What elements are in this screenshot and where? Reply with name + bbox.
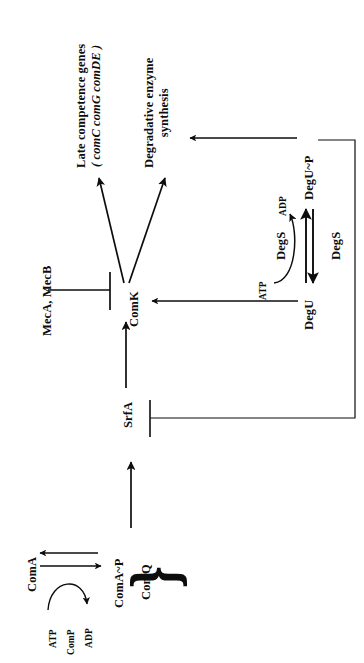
node-degu: DegU [303, 300, 317, 330]
cofactor-adp-degu: ADP [278, 196, 288, 216]
node-srfa: SrfA [122, 402, 136, 428]
coma-p-comq-brace: } [118, 564, 191, 590]
node-comk: ComK [128, 291, 142, 327]
degradative-enzyme-line1: Degradative enzyme [142, 58, 157, 168]
cofactor-atp-coma: ATP [48, 629, 58, 648]
edge-degu-p-inhibits-srfa-path [150, 140, 355, 418]
edge-comk-to-late-competence-genes [99, 178, 124, 283]
late-competence-genes-line1: Late competence genes [74, 44, 89, 168]
cofactor-adp-coma: ADP [84, 628, 94, 648]
late-competence-genes-line2: ( comC comG comDE ) [89, 44, 104, 168]
cofactor-atp-degu: ATP [258, 281, 268, 300]
edge-comk-to-degradative-enzyme [129, 178, 165, 283]
node-meca-mecb: MecA, MecB [41, 266, 55, 336]
node-degradative-enzyme-synthesis: Degradative enzyme synthesis [142, 58, 173, 168]
pathway-diagram: Late competence genes ( comC comG comDE … [0, 0, 364, 663]
node-degu-p: DegU~P [303, 155, 317, 200]
degradative-enzyme-line2: synthesis [157, 58, 172, 168]
node-degs-upper: DegS [275, 232, 289, 260]
edge-coma-atp-to-adp [48, 584, 87, 610]
node-degs-lower: DegS [330, 232, 344, 260]
node-late-competence-genes: Late competence genes ( comC comG comDE … [74, 44, 105, 168]
node-comp: ComP [66, 629, 76, 655]
node-coma: ComA [26, 557, 40, 592]
